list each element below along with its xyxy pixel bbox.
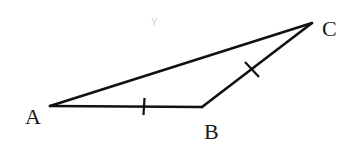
side-ab [50,106,202,107]
tick-mark-ab [144,98,145,115]
vertex-label-c: C [322,16,337,41]
triangle-sides [50,23,312,107]
side-bc [202,23,312,107]
vertex-label-a: A [25,104,41,129]
side-ac [50,23,312,106]
vertex-label-b: B [204,119,219,144]
triangle-diagram: Y A B C [0,0,360,149]
faint-mark: Y [151,17,158,28]
